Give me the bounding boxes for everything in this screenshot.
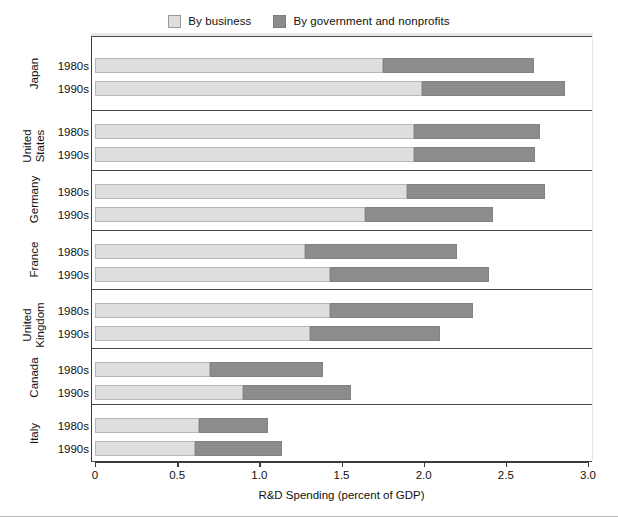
x-tick-label: 0.5 <box>152 469 202 481</box>
legend-swatch-government <box>273 15 286 28</box>
x-tick-label: 3.0 <box>563 469 613 481</box>
x-tick <box>259 461 260 467</box>
x-tick-label: 2.0 <box>399 469 449 481</box>
group-rule <box>91 348 592 349</box>
country-label-italy: Italy <box>28 374 41 494</box>
legend-entry-government: By government and nonprofits <box>273 15 449 28</box>
group-rule <box>91 170 592 171</box>
legend-entry-business: By business <box>168 15 251 28</box>
rd-spending-chart: By business By government and nonprofits… <box>0 0 618 524</box>
x-tick <box>588 461 589 467</box>
x-tick-label: 0 <box>70 469 120 481</box>
group-rule <box>91 289 592 290</box>
group-rule <box>91 36 592 37</box>
legend-label-government: By government and nonprofits <box>293 15 449 27</box>
period-label-1980s: 1980s <box>37 245 89 259</box>
x-tick <box>506 461 507 467</box>
group-rule <box>91 230 592 231</box>
x-tick <box>424 461 425 467</box>
period-label-1980s: 1980s <box>37 59 89 73</box>
x-axis-title: R&D Spending (percent of GDP) <box>95 489 588 501</box>
period-label-1990s: 1990s <box>37 442 89 456</box>
x-tick-label: 1.5 <box>317 469 367 481</box>
legend-swatch-business <box>168 15 181 28</box>
period-label-1980s: 1980s <box>37 419 89 433</box>
period-label-1990s: 1990s <box>37 208 89 222</box>
group-rule <box>91 404 592 405</box>
page-bottom-rule <box>0 516 618 517</box>
x-tick-label: 1.0 <box>234 469 284 481</box>
period-label-1990s: 1990s <box>37 386 89 400</box>
group-rule <box>91 110 592 111</box>
plot-area <box>91 36 592 461</box>
x-tick-label: 2.5 <box>481 469 531 481</box>
x-tick <box>95 461 96 467</box>
chart-legend: By business By government and nonprofits <box>0 8 618 34</box>
x-tick <box>342 461 343 467</box>
legend-label-business: By business <box>188 15 251 27</box>
x-tick <box>177 461 178 467</box>
